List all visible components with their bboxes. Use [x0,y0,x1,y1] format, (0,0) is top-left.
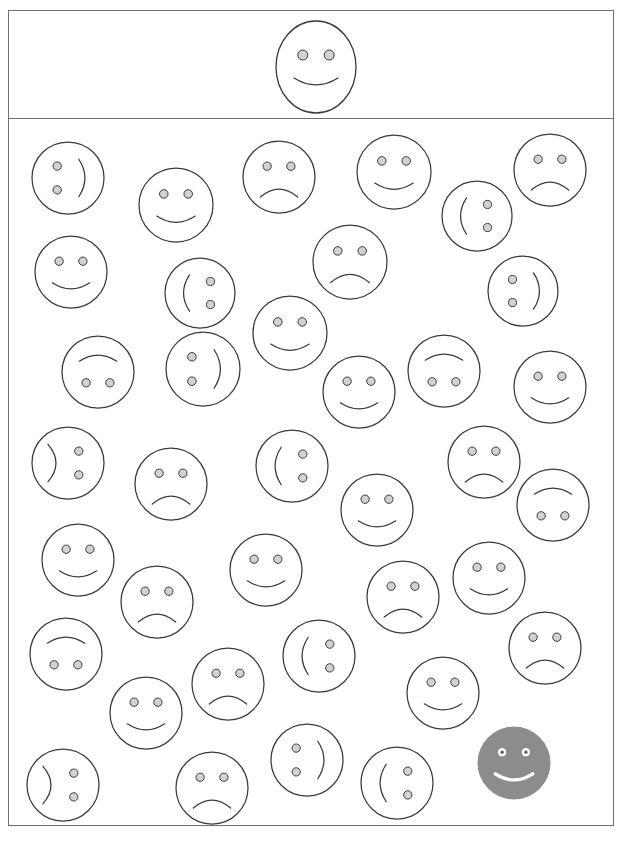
face-hit[interactable] [517,469,589,541]
face-hit[interactable] [32,142,104,214]
face-hit[interactable] [323,356,395,428]
face-hit[interactable] [271,724,343,796]
face-hit[interactable] [139,168,213,242]
face-hit[interactable] [27,749,99,821]
face-hit[interactable] [361,747,433,819]
face-hit[interactable] [110,677,182,749]
face-hit[interactable] [230,534,302,606]
face-hit[interactable] [509,612,581,684]
face-hit[interactable] [253,296,327,370]
face-hit[interactable] [121,566,193,638]
face-hit[interactable] [313,225,387,299]
face-hit[interactable] [514,134,586,206]
selected-face-hit[interactable] [478,727,550,799]
face-hit[interactable] [243,141,315,213]
face-hit[interactable] [488,256,558,326]
face-hit[interactable] [192,648,264,720]
target-panel [8,10,614,119]
face-hit[interactable] [35,236,107,308]
face-hit[interactable] [32,427,104,499]
face-hit[interactable] [30,618,102,690]
face-hit[interactable] [367,561,439,633]
visual-search-stage [0,0,634,847]
face-hit[interactable] [407,657,479,729]
face-hit[interactable] [357,135,431,209]
face-hit[interactable] [62,336,134,408]
face-hit[interactable] [166,332,240,406]
face-hit[interactable] [453,542,525,614]
face-hit[interactable] [165,258,235,328]
face-hit[interactable] [341,474,413,546]
face-hit[interactable] [176,752,248,824]
face-hit[interactable] [42,524,114,596]
face-hit[interactable] [408,335,480,407]
face-hit[interactable] [448,426,520,498]
face-hit[interactable] [135,448,207,520]
face-hit[interactable] [256,430,328,502]
face-hit[interactable] [442,181,512,251]
face-hit[interactable] [514,351,586,423]
face-hit[interactable] [283,620,355,692]
